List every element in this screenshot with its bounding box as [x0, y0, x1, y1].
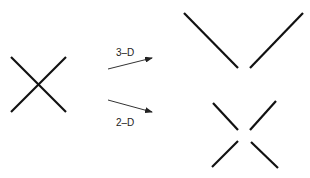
- left-crossing-x: [11, 57, 66, 112]
- split-bottom-right: [251, 142, 278, 168]
- bottom-split-x: [212, 101, 278, 168]
- v-line-right: [250, 13, 303, 68]
- split-bottom-left: [212, 141, 238, 167]
- split-top-right: [250, 101, 276, 130]
- label-3d: 3–D: [116, 47, 134, 58]
- crossing-diagram: 3–D 2–D: [0, 0, 310, 178]
- split-top-left: [213, 103, 238, 130]
- v-line-left: [184, 13, 238, 68]
- arrow-2d-icon: [108, 100, 152, 112]
- top-v-resolution: [184, 13, 303, 68]
- arrow-3d: 3–D: [108, 47, 152, 69]
- label-2d: 2–D: [116, 117, 134, 128]
- arrow-2d: 2–D: [108, 100, 152, 128]
- arrow-3d-icon: [108, 58, 152, 69]
